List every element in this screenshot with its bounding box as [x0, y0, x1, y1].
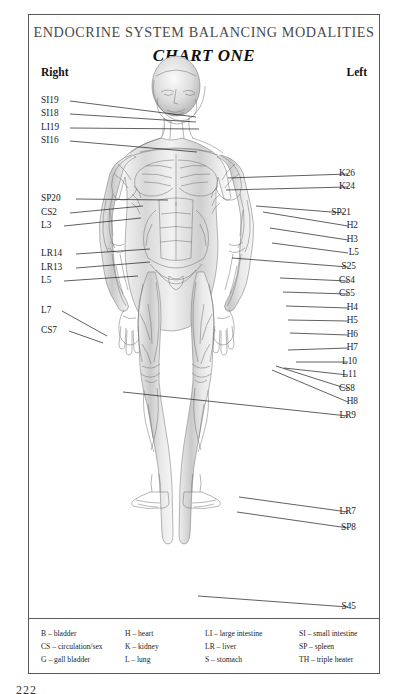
- label-l7: L7: [41, 306, 51, 315]
- legend-item: K – kidney: [125, 641, 205, 652]
- legend-item: B – bladder: [41, 628, 125, 639]
- figure-torso: [112, 138, 231, 331]
- legend-item: LI – large intestine: [205, 628, 299, 639]
- label-l10: L10: [342, 357, 357, 366]
- legend: B – bladderH – heartLI – large intestine…: [29, 618, 379, 673]
- legend-item: SP – spleen: [299, 641, 385, 652]
- legend-item: CS – circulation/sex: [41, 641, 125, 652]
- label-l3: L3: [41, 221, 51, 230]
- label-sp8: SP8: [341, 523, 356, 532]
- chart-page: ENDOCRINE SYSTEM BALANCING MODALITIES CH…: [0, 0, 408, 694]
- label-sp21: SP21: [331, 208, 351, 217]
- label-cs2: CS2: [41, 208, 57, 217]
- legend-item: H – heart: [125, 628, 205, 639]
- label-lr14: LR14: [41, 249, 62, 258]
- label-s45: S45: [342, 602, 356, 611]
- label-k24: K24: [339, 182, 355, 191]
- label-si16: SI16: [41, 136, 59, 145]
- label-li19: LI19: [41, 123, 59, 132]
- label-h6: H6: [347, 330, 358, 339]
- label-h2: H2: [347, 221, 358, 230]
- label-h8: H8: [347, 397, 358, 406]
- label-l5: L5: [41, 276, 51, 285]
- label-l5: L5: [349, 248, 359, 257]
- label-cs5: CS5: [339, 289, 355, 298]
- legend-grid: B – bladderH – heartLI – large intestine…: [41, 628, 371, 665]
- label-h5: H5: [347, 316, 358, 325]
- label-s25: S25: [342, 262, 356, 271]
- label-si19: SI19: [41, 96, 59, 105]
- label-l11: L11: [342, 370, 357, 379]
- label-cs4: CS4: [339, 276, 355, 285]
- figure-head: [152, 56, 205, 139]
- legend-item: L – lung: [125, 654, 205, 665]
- legend-item: SI – small intestine: [299, 628, 385, 639]
- label-h7: H7: [347, 343, 358, 352]
- label-cs7: CS7: [41, 326, 57, 335]
- label-lr7: LR7: [339, 507, 356, 516]
- anatomical-figure: [28, 14, 380, 614]
- legend-item: G – gall bladder: [41, 654, 125, 665]
- label-lr13: LR13: [41, 263, 62, 272]
- legend-item: TH – triple heater: [299, 654, 385, 665]
- label-sp20: SP20: [41, 194, 61, 203]
- label-h3: H3: [347, 235, 358, 244]
- label-si18: SI18: [41, 109, 59, 118]
- label-k26: K26: [339, 169, 355, 178]
- label-cs8: CS8: [339, 384, 355, 393]
- legend-item: LR – liver: [205, 641, 299, 652]
- page-number: 222: [16, 683, 37, 694]
- legend-item: S – stomach: [205, 654, 299, 665]
- label-h4: H4: [347, 303, 358, 312]
- label-lr9: LR9: [339, 411, 356, 420]
